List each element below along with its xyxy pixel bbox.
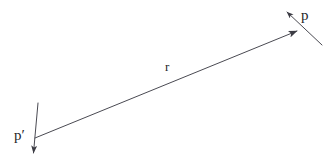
label-r: r [165,60,169,73]
label-p: p [301,8,309,23]
vector-diagram: p p′ r [0,0,336,165]
label-p-prime: p′ [14,128,25,143]
line-p-prime [34,103,39,153]
strokes-group [34,12,323,153]
diagram-canvas [0,0,336,165]
vector-r-line [35,31,297,138]
